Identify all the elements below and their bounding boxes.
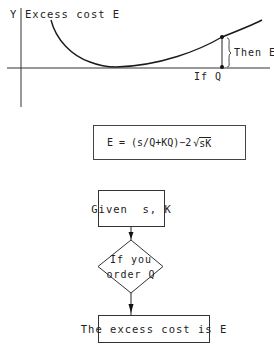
y-axis-label: Y xyxy=(10,9,17,20)
arrow-down-icon xyxy=(129,304,134,313)
input-box: Given s, K xyxy=(98,190,165,227)
excess-cost-curve xyxy=(51,20,262,67)
formula-box: E = (s/Q+KQ)−2 √ sK xyxy=(93,125,246,160)
input-box-label: Given s, K xyxy=(91,203,172,215)
decision-label: If you order Q xyxy=(100,252,162,282)
curve-title-label: Excess cost E xyxy=(25,9,120,20)
output-box: The excess cost is E xyxy=(98,315,210,343)
decision-line-2: order Q xyxy=(100,267,162,282)
arrow-down-icon xyxy=(129,232,134,239)
then-e-label: Then E xyxy=(234,48,274,58)
formula-lhs: E = (s/Q+KQ)−2 xyxy=(107,137,191,148)
brace-icon xyxy=(227,38,231,67)
axis-point-dot xyxy=(220,65,224,69)
formula-radicand: sK xyxy=(199,137,211,149)
output-box-label: The excess cost is E xyxy=(81,323,227,335)
decision-line-1: If you xyxy=(100,252,162,267)
excess-cost-graph xyxy=(0,0,274,350)
curve-point-dot xyxy=(220,35,224,39)
if-q-label: If Q xyxy=(194,72,222,82)
